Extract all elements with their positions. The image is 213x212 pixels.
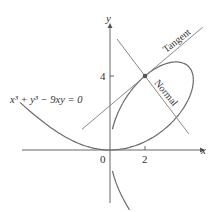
y-axis-label: y xyxy=(105,12,111,24)
normal-line xyxy=(117,39,189,134)
equation-label: x³ + y³ − 9xy = 0 xyxy=(9,94,83,105)
y-tick-label: 4 xyxy=(100,70,106,82)
origin-label: 0 xyxy=(100,153,106,165)
x-tick-label: 2 xyxy=(142,153,148,165)
folium-diagram: x y 0 2 4 x³ + y³ − 9xy = 0 Tangent Norm… xyxy=(0,0,213,212)
point-of-tangency xyxy=(143,74,148,79)
x-axis-label: x xyxy=(200,144,206,156)
